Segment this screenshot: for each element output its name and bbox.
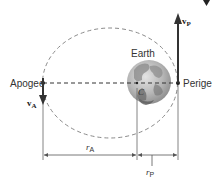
- apogee-label: Apogee: [10, 78, 45, 89]
- r-perigee-label: rP: [146, 167, 155, 178]
- perigee-label: Perigee: [183, 78, 212, 89]
- v-apogee-label: vA: [27, 98, 37, 110]
- v-perigee-label: vP: [182, 16, 192, 28]
- corner-mark-icon: [203, 0, 210, 6]
- center-label: C: [138, 87, 145, 97]
- r-apogee-label: rA: [86, 142, 95, 153]
- orbit-diagram: Apogee Perigee Earth C vA vP rA rP: [0, 0, 212, 179]
- velocity-perigee-arrow-icon: [174, 13, 182, 83]
- center-point: [136, 82, 138, 84]
- earth-label: Earth: [131, 48, 155, 59]
